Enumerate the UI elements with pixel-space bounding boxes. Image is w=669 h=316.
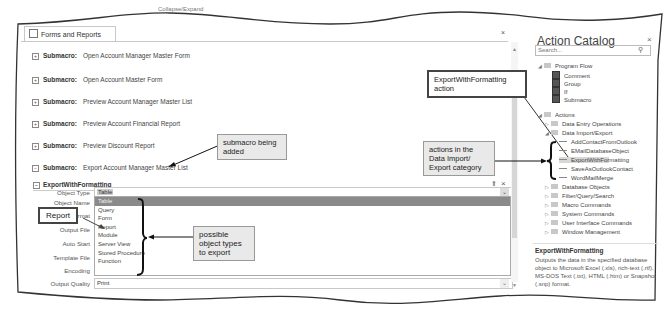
tree-group-actions[interactable]: ◢Actions: [538, 112, 575, 118]
tree-category[interactable]: ▷Data Entry Operations: [545, 121, 621, 127]
tree-category[interactable]: ▷Macro Commands: [545, 202, 611, 208]
callout-submacro-added: submacro being added: [217, 134, 287, 160]
action-icon: [559, 168, 567, 169]
action-icon: [559, 177, 567, 178]
tree-group-program-flow[interactable]: ◢Program Flow: [538, 63, 592, 69]
tree-category[interactable]: ▷User Interface Commands: [545, 220, 632, 226]
action-icon: [552, 79, 560, 87]
tree-category[interactable]: ▷System Commands: [545, 211, 614, 217]
description-title: ExportWithFormatting: [535, 247, 604, 254]
folder-icon: [551, 202, 558, 207]
callout-exportwithformatting-action: ExportWithFormatting action: [427, 70, 527, 98]
action-icon: [559, 141, 567, 142]
tree-category[interactable]: ◢Data Import/Export: [545, 130, 612, 136]
tree-category[interactable]: ▷Window Management: [545, 229, 620, 235]
catalog-divider: [533, 243, 658, 244]
tree-item[interactable]: Group: [552, 79, 581, 87]
folder-icon: [544, 63, 551, 68]
folder-icon: [551, 121, 558, 126]
callout-object-types: possible object types to export: [193, 226, 255, 261]
folder-icon: [551, 229, 558, 234]
tree-item[interactable]: Comment: [552, 71, 590, 79]
callout-report: Report: [38, 207, 78, 224]
search-icon[interactable]: ⚲: [638, 46, 643, 54]
tree-item[interactable]: If: [552, 87, 567, 95]
tree-item[interactable]: EMailDatabaseObject: [559, 148, 629, 154]
folder-icon: [551, 211, 558, 216]
tree-item[interactable]: WordMailMerge: [559, 175, 613, 181]
action-icon: [552, 71, 560, 79]
tree-item[interactable]: AddContactFromOutlook: [559, 139, 637, 145]
description-text: Outputs the data in the specified databa…: [535, 256, 657, 288]
folder-icon: [551, 193, 558, 198]
tree-category[interactable]: ▷Filter/Query/Search: [545, 193, 614, 199]
tree-item[interactable]: Submacro: [552, 95, 591, 103]
action-icon: [559, 159, 567, 160]
callout-data-import-export: actions in the Data Import/ Export categ…: [423, 141, 495, 176]
tree-item-selected[interactable]: ExportWithFormatting: [559, 157, 609, 163]
action-icon: [552, 95, 560, 103]
close-catalog-icon[interactable]: ×: [647, 35, 652, 44]
catalog-search-input[interactable]: Search...: [535, 45, 651, 56]
action-icon: [559, 150, 567, 151]
folder-icon: [551, 130, 558, 135]
tree-item[interactable]: SaveAsOutlookContact: [559, 166, 633, 172]
folder-icon: [551, 220, 558, 225]
folder-icon: [544, 112, 551, 117]
folder-icon: [551, 184, 558, 189]
tree-category[interactable]: ▷Database Objects: [545, 184, 610, 190]
action-icon: [552, 87, 560, 95]
